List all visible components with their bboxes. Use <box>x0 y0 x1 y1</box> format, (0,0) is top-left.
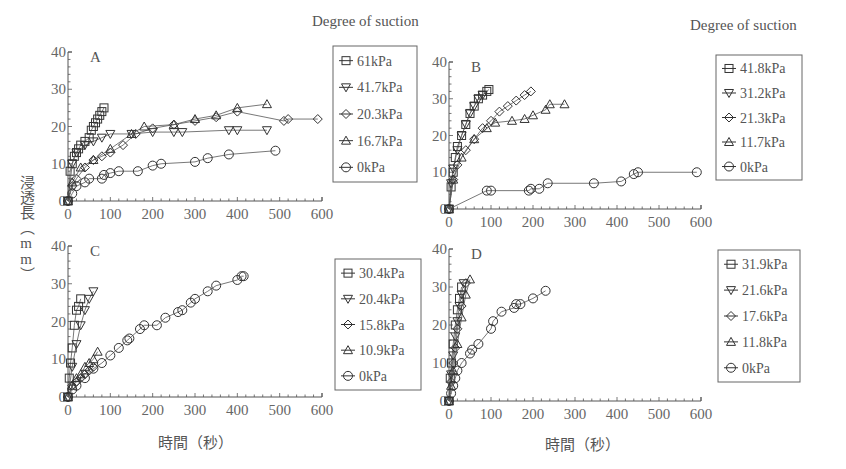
legend-label: 0kPa <box>359 369 388 384</box>
series-line <box>449 104 565 209</box>
data-point <box>106 130 115 138</box>
y-tick-label: 40 <box>432 54 447 70</box>
x-axis-label-left: 時間（秒） <box>158 431 233 452</box>
legend-label: 11.7kPa <box>740 135 786 150</box>
legend-label: 30.4kPa <box>359 266 405 281</box>
x-tick-label: 600 <box>311 206 334 222</box>
legend-label: 21.6kPa <box>742 283 788 298</box>
data-series-0kpa <box>445 168 702 214</box>
x-tick-label: 100 <box>480 214 503 230</box>
legend-label: 11.8kPa <box>742 335 788 350</box>
legend-label: 10.9kPa <box>359 343 405 358</box>
y-tick-label: 20 <box>51 314 66 330</box>
x-tick-label: 400 <box>226 402 249 418</box>
x-tick-label: 400 <box>226 206 249 222</box>
data-series-20-3kpa <box>64 107 323 205</box>
y-tick-label: 30 <box>432 91 447 107</box>
y-tick-label: 30 <box>51 81 66 97</box>
y-tick-label: 20 <box>432 317 447 333</box>
y-tick-label: 20 <box>432 128 447 144</box>
legend-label: 41.8kPa <box>740 61 786 76</box>
x-tick-label: 100 <box>480 406 503 422</box>
x-tick-label: 500 <box>648 214 671 230</box>
legend-label: 31.2kPa <box>740 86 786 101</box>
legend: 61kPa41.7kPa20.3kPa16.7kPa0kPa <box>333 46 417 182</box>
data-series-11-7kpa <box>445 100 570 213</box>
x-tick-label: 100 <box>99 402 122 418</box>
y-tick-label: 0 <box>440 393 448 409</box>
x-tick-label: 600 <box>690 214 713 230</box>
x-tick-label: 300 <box>564 214 587 230</box>
data-point <box>560 100 569 108</box>
x-tick-label: 400 <box>606 214 629 230</box>
y-tick-label: 30 <box>51 276 66 292</box>
legend-label: 31.9kPa <box>742 257 788 272</box>
data-point <box>262 127 271 135</box>
y-tick-label: 10 <box>51 351 66 367</box>
data-point <box>178 129 187 137</box>
x-tick-label: 200 <box>141 206 164 222</box>
y-tick-label: 40 <box>432 241 447 257</box>
data-series-0kpa <box>64 146 280 205</box>
figure-canvas: 0100200300400500600010203040A61kPa41.7kP… <box>0 0 846 469</box>
y-tick-label: 10 <box>432 355 447 371</box>
x-tick-label: 500 <box>648 406 671 422</box>
panel-label: B <box>471 59 481 75</box>
legend: 30.4kPa20.4kPa15.8kPa10.9kPa0kPa <box>335 259 421 390</box>
data-point <box>529 111 538 119</box>
x-tick-label: 100 <box>99 206 122 222</box>
chart-panel-c: 0100200300400500600010203040C30.4kPa20.4… <box>51 238 421 418</box>
data-point <box>93 347 102 355</box>
legend-title-left: Degree of suction <box>312 13 419 30</box>
data-series-41-7kpa <box>64 127 272 206</box>
x-tick-label: 300 <box>184 206 207 222</box>
panel-label: C <box>90 243 100 259</box>
y-tick-label: 0 <box>59 389 67 405</box>
x-tick-label: 200 <box>522 406 545 422</box>
data-point <box>262 100 271 108</box>
series-line <box>68 130 267 201</box>
y-tick-label: 20 <box>51 119 66 135</box>
legend-label: 41.7kPa <box>357 80 403 95</box>
legend-label: 0kPa <box>357 160 386 175</box>
x-tick-label: 300 <box>564 406 587 422</box>
x-tick-label: 500 <box>268 402 291 418</box>
x-axis-label-right: 時間（秒） <box>545 433 620 454</box>
legend-label: 16.7kPa <box>357 134 403 149</box>
legend-label: 21.3kPa <box>740 111 786 126</box>
legend-label: 17.6kPa <box>742 309 788 324</box>
panel-label: D <box>471 246 482 262</box>
x-tick-label: 300 <box>184 402 207 418</box>
legend: 41.8kPa31.2kPa21.3kPa11.7kPa0kPa <box>716 55 802 180</box>
data-point <box>520 114 529 122</box>
y-tick-label: 40 <box>51 238 66 254</box>
x-tick-label: 600 <box>311 402 334 418</box>
legend-label: 20.4kPa <box>359 292 405 307</box>
data-point <box>233 127 242 135</box>
x-tick-label: 400 <box>606 406 629 422</box>
x-tick-label: 500 <box>268 206 291 222</box>
y-tick-label: 0 <box>440 201 448 217</box>
legend-label: 20.3kPa <box>357 107 403 122</box>
data-series-0kpa <box>445 286 551 405</box>
y-tick-label: 10 <box>51 156 66 172</box>
y-tick-label: 30 <box>432 279 447 295</box>
chart-panel-a: 0100200300400500600010203040A61kPa41.7kP… <box>51 44 417 222</box>
x-tick-label: 200 <box>522 214 545 230</box>
panel-label: A <box>90 49 101 65</box>
legend-label: 61kPa <box>357 54 393 69</box>
y-tick-label: 0 <box>59 193 67 209</box>
legend: 31.9kPa21.6kPa17.6kPa11.8kPa0kPa <box>718 250 800 382</box>
chart-panel-d: 0100200300400500600010203040D31.9kPa21.6… <box>432 241 800 422</box>
data-point <box>97 134 106 142</box>
legend-label: 0kPa <box>742 361 771 376</box>
chart-panel-b: 0100200300400500600010203040B41.8kPa31.2… <box>432 54 802 230</box>
x-tick-label: 600 <box>690 406 713 422</box>
y-tick-label: 40 <box>51 44 66 60</box>
legend-label: 0kPa <box>740 160 769 175</box>
legend-title-right: Degree of suction <box>690 17 797 34</box>
y-axis-label: 浸透長（mm） <box>14 175 38 282</box>
series-line <box>68 112 318 201</box>
x-tick-label: 200 <box>141 402 164 418</box>
legend-label: 15.8kPa <box>359 318 405 333</box>
